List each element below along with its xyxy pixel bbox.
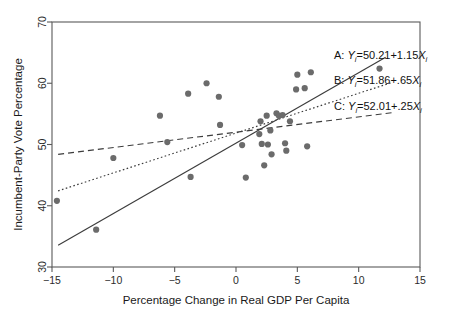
data-point bbox=[243, 174, 249, 180]
x-tick-label: −5 bbox=[169, 274, 181, 286]
data-point bbox=[294, 72, 300, 78]
data-point bbox=[257, 118, 263, 124]
data-point bbox=[264, 113, 270, 119]
data-point bbox=[282, 140, 288, 146]
data-point bbox=[376, 65, 382, 71]
data-point bbox=[308, 69, 314, 75]
data-point bbox=[287, 118, 293, 124]
x-tick-label: 10 bbox=[353, 274, 365, 286]
data-point bbox=[93, 227, 99, 233]
y-tick-label: 40 bbox=[36, 200, 48, 212]
y-tick-label: 50 bbox=[36, 139, 48, 151]
x-tick-label: −10 bbox=[104, 274, 122, 286]
y-axis: 3040506070Incumbent-Party Vote Percentag… bbox=[12, 16, 52, 273]
data-point bbox=[239, 142, 245, 148]
data-point bbox=[185, 91, 191, 97]
data-point bbox=[54, 198, 60, 204]
data-point bbox=[110, 155, 116, 161]
scatter-plot-figure: −15−10−5051015Percentage Change in Real … bbox=[0, 0, 457, 319]
data-point bbox=[304, 143, 310, 149]
data-point bbox=[293, 86, 299, 92]
equation-label-C: C: Yi=52.01+.25Xi bbox=[334, 100, 422, 115]
y-tick-label: 30 bbox=[36, 261, 48, 273]
data-point bbox=[157, 113, 163, 119]
data-point bbox=[265, 141, 271, 147]
x-tick-label: 15 bbox=[414, 274, 426, 286]
y-tick-label: 70 bbox=[36, 16, 48, 28]
data-point bbox=[217, 122, 223, 128]
data-point bbox=[261, 162, 267, 168]
data-point bbox=[267, 127, 273, 133]
data-point bbox=[256, 131, 262, 137]
data-point bbox=[259, 141, 265, 147]
data-point bbox=[302, 85, 308, 91]
data-point bbox=[268, 151, 274, 157]
data-point bbox=[188, 174, 194, 180]
x-tick-label: −15 bbox=[43, 274, 61, 286]
x-tick-label: 0 bbox=[233, 274, 239, 286]
data-point bbox=[203, 80, 209, 86]
y-tick-label: 60 bbox=[36, 77, 48, 89]
y-axis-title: Incumbent-Party Vote Percentage bbox=[12, 58, 24, 231]
x-tick-label: 5 bbox=[294, 274, 300, 286]
plot-canvas: −15−10−5051015Percentage Change in Real … bbox=[0, 0, 457, 319]
equation-label-B: B: Yi=51.86+.65Xi bbox=[334, 74, 421, 89]
x-axis: −15−10−5051015Percentage Change in Real … bbox=[43, 267, 426, 306]
equation-annotations: A: Yi=50.21+1.15XiB: Yi=51.86+.65XiC: Yi… bbox=[334, 49, 428, 115]
equation-label-A: A: Yi=50.21+1.15Xi bbox=[334, 49, 428, 64]
data-point bbox=[280, 112, 286, 118]
x-axis-title: Percentage Change in Real GDP Per Capita bbox=[123, 294, 350, 306]
data-point bbox=[164, 139, 170, 145]
data-point bbox=[216, 94, 222, 100]
data-point bbox=[283, 148, 289, 154]
